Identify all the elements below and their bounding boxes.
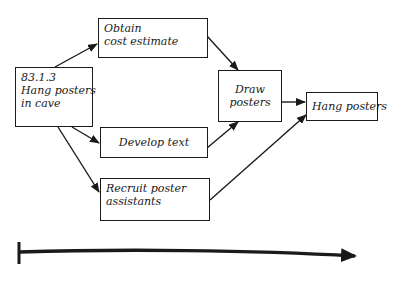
node-label-line: Draw (224, 83, 276, 96)
edge-root-recruit (58, 127, 99, 192)
node-label-line: Hang posters (21, 84, 87, 97)
node-obtain-cost-estimate: Obtain cost estimate (98, 18, 208, 58)
node-draw-posters: Draw posters (218, 70, 282, 122)
timeline-arrow (19, 242, 355, 264)
node-label-line: Recruit poster (106, 182, 204, 195)
node-label-line: assistants (106, 195, 204, 208)
node-label-line: Develop text (106, 136, 202, 149)
node-hang-posters-in-cave: 83.1.3 Hang posters in cave (15, 67, 93, 127)
node-label-line: posters (224, 96, 276, 109)
node-recruit-poster-assistants: Recruit poster assistants (100, 178, 210, 221)
edge-root-text (72, 127, 99, 143)
node-develop-text: Develop text (100, 127, 208, 158)
node-label-line: Hang posters (312, 100, 372, 113)
node-label-line: in cave (21, 97, 87, 110)
node-hang-posters: Hang posters (306, 92, 378, 121)
edge-recruit-hang (210, 115, 306, 200)
node-id-label: 83.1.3 (21, 71, 87, 84)
edge-root-cost (55, 44, 97, 67)
node-label-line: cost estimate (104, 35, 202, 48)
node-label-line: Obtain (104, 22, 202, 35)
edge-cost-draw (207, 36, 238, 70)
edge-text-draw (207, 122, 238, 148)
